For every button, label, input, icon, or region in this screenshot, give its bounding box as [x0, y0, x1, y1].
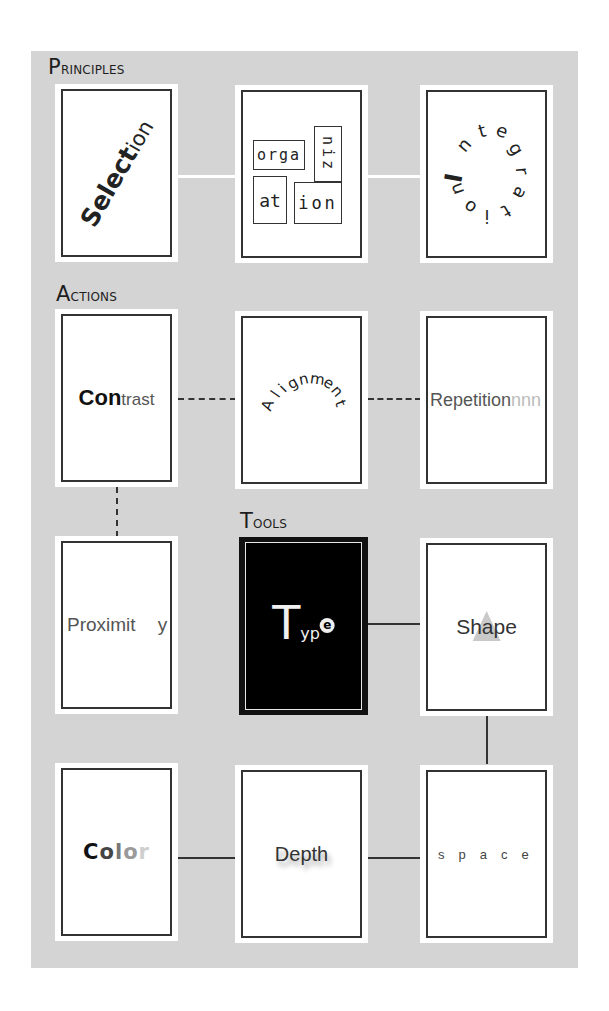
card-selection: Selection: [55, 84, 178, 262]
card-contrast: Contrast: [55, 309, 178, 487]
connector-shape-space: [486, 714, 488, 764]
card-integration: I n t e g r a t i o n: [420, 85, 553, 263]
connector-type-shape: [368, 623, 421, 625]
section-label-principles: Principles: [48, 57, 125, 78]
card-color: Color: [55, 763, 178, 941]
card-proximity: Proximity: [55, 536, 178, 714]
card-repetition: Repetitionnnn: [420, 311, 553, 489]
card-organization: orga niz at ion: [235, 85, 368, 263]
connector-contrast-alignment: [178, 398, 236, 400]
integration-letter: n: [452, 133, 476, 157]
color-word: Color: [83, 840, 150, 864]
space-word: space: [438, 847, 543, 862]
integration-letter: i: [479, 207, 495, 225]
card-shape: Shape: [420, 538, 553, 716]
depth-word: Depth: [275, 843, 328, 866]
selection-word: Selection: [74, 114, 159, 232]
organization-box-orga: orga: [253, 140, 305, 170]
card-space: space: [420, 765, 553, 943]
card-depth: Depth: [235, 765, 368, 943]
section-label-tools: Tools: [240, 511, 287, 532]
integration-letter: e: [491, 120, 512, 142]
organization-box-at: at: [253, 176, 287, 224]
organization-box-ion: ion: [294, 182, 342, 224]
shape-word: Shape: [456, 615, 517, 639]
integration-letter: g: [504, 138, 528, 161]
repetition-word: Repetitionnnn: [430, 390, 541, 411]
connector-depth-space: [368, 857, 421, 859]
card-type: Type: [239, 537, 368, 715]
contrast-word: Contrast: [79, 385, 155, 411]
integration-letter: t: [472, 120, 492, 142]
integration-letter: t: [495, 199, 518, 223]
section-label-actions: Actions: [56, 284, 117, 305]
proximity-word: Proximity: [67, 614, 167, 636]
alignment-letter: A: [259, 398, 277, 413]
integration-letter: a: [508, 182, 532, 205]
connector-alignment-repetition: [368, 398, 421, 400]
connector-color-depth: [178, 857, 236, 859]
card-alignment: A l i g n m e n t: [235, 311, 368, 489]
organization-box-niz: niz: [314, 126, 342, 182]
integration-letter: r: [512, 162, 531, 180]
connector-contrast-proximity: [116, 487, 118, 537]
type-word: Type: [272, 596, 335, 650]
